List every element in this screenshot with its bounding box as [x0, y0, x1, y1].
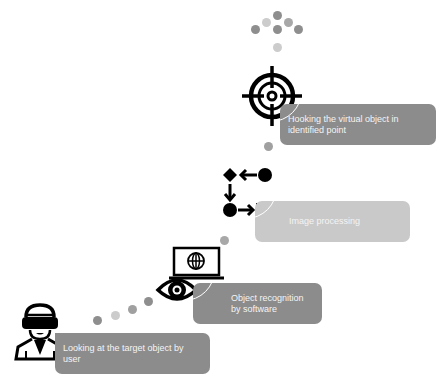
dot	[262, 18, 271, 27]
step-label: Hooking the virtual object in identified…	[288, 114, 428, 136]
step-box-looking: Looking at the target object by user	[55, 333, 210, 374]
dot	[294, 25, 303, 34]
dot	[93, 316, 102, 325]
dot	[144, 297, 153, 306]
step-box-image-processing: Image processing	[255, 201, 410, 242]
step-label: Image processing	[263, 216, 360, 227]
dot	[251, 25, 260, 34]
dot	[273, 11, 282, 20]
dot	[273, 25, 282, 34]
dot	[128, 305, 137, 314]
dot	[273, 43, 282, 52]
step-label: Object recognition by software	[201, 293, 314, 315]
dot	[111, 311, 120, 320]
dot	[264, 142, 273, 151]
step-label: Looking at the target object by user	[63, 343, 202, 365]
dot	[284, 18, 293, 27]
step-box-object-recognition: Object recognition by software	[193, 283, 322, 324]
step-box-hooking: Hooking the virtual object in identified…	[280, 104, 436, 145]
dot	[220, 236, 229, 245]
